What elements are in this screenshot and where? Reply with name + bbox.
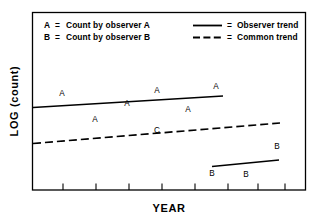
x-axis-ticks: [63, 184, 285, 191]
legend-label-common-trend: Common trend: [237, 32, 298, 42]
data-point-b: B: [243, 170, 249, 179]
data-point-c: C: [154, 126, 160, 135]
legend-key-b: B: [44, 32, 50, 42]
x-axis-title: YEAR: [153, 202, 186, 214]
common-data-points: C: [154, 126, 160, 135]
data-point-a: A: [154, 86, 160, 95]
legend-separator-observer-trend: =: [227, 20, 232, 30]
chart-figure: A = Count by observer A B = Count by obs…: [0, 0, 328, 221]
legend-separator-b: =: [55, 32, 60, 42]
y-axis-title: LOG (count): [8, 66, 20, 137]
legend-separator-a: =: [55, 20, 60, 30]
data-point-b: B: [274, 142, 280, 151]
legend: A = Count by observer A B = Count by obs…: [44, 20, 298, 42]
legend-label-a: Count by observer A: [66, 20, 150, 30]
legend-key-a: A: [44, 20, 50, 30]
legend-label-observer-trend: Observer trend: [237, 20, 298, 30]
legend-separator-common-trend: =: [227, 32, 232, 42]
legend-label-b: Count by observer B: [66, 32, 150, 42]
data-point-a: A: [185, 105, 191, 114]
data-point-a: A: [59, 89, 65, 98]
data-point-b: B: [209, 169, 215, 178]
data-point-a: A: [92, 115, 98, 124]
observer-a-data-points: A A A A A A: [59, 82, 219, 124]
data-point-a: A: [124, 99, 130, 108]
data-point-a: A: [213, 82, 219, 91]
observer-b-trend-line: [212, 160, 279, 167]
chart-canvas: A = Count by observer A B = Count by obs…: [0, 0, 328, 221]
